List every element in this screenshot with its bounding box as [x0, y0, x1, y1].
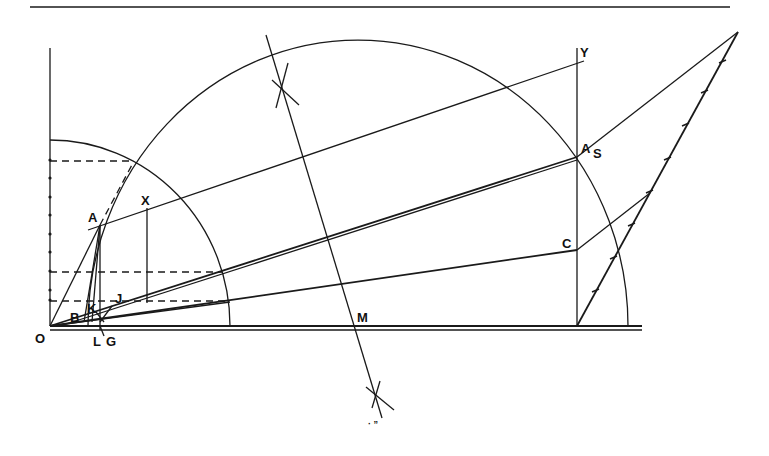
label-S: S	[593, 146, 602, 161]
label-K: K	[87, 301, 97, 316]
bottom-mark: · ”	[368, 419, 378, 429]
label-A: A	[88, 210, 98, 225]
radial-line-O-A2	[50, 157, 577, 326]
label-A2: A	[581, 141, 591, 156]
radial-line-O-C	[50, 250, 577, 326]
arc-mark-bottom	[366, 381, 394, 410]
label-M: M	[357, 310, 368, 325]
label-L: L	[93, 334, 101, 349]
label-Y: Y	[580, 45, 589, 60]
line-S-to-scale-top	[577, 32, 738, 157]
radial-line-O-A2-second	[60, 160, 577, 326]
perpendicular-bisector	[266, 35, 382, 418]
divided-scale-line	[577, 32, 738, 326]
label-J: J	[115, 291, 122, 306]
label-C: C	[562, 236, 572, 251]
large-semicircle	[88, 40, 628, 326]
label-X: X	[141, 193, 150, 208]
small-quarter-circle	[50, 140, 230, 326]
label-G: G	[106, 334, 116, 349]
label-O: O	[35, 331, 45, 346]
geometric-construction-diagram: O A X B K J L G M Y A S C · ”	[0, 0, 769, 456]
line-C-to-scale	[577, 193, 650, 250]
label-B: B	[70, 310, 79, 325]
line-A-Y	[88, 61, 584, 230]
